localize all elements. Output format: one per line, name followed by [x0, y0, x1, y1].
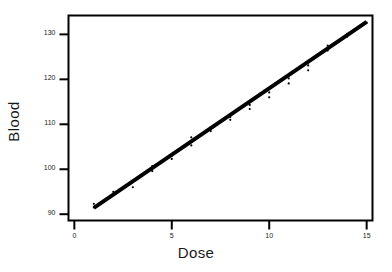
x-tick-label: 0 — [64, 232, 84, 239]
x-axis-ticks — [74, 221, 366, 230]
data-point — [229, 116, 231, 118]
data-point — [93, 203, 95, 205]
data-point — [210, 126, 212, 128]
y-axis-ticks — [60, 34, 69, 214]
data-point — [268, 91, 270, 93]
data-point — [190, 136, 192, 138]
data-point — [346, 33, 348, 35]
y-axis-title: Blood — [5, 72, 22, 172]
x-tick-label: 10 — [259, 232, 279, 239]
chart-container: 90100110120130 051015 Dose Blood — [0, 0, 392, 272]
data-point — [268, 96, 270, 98]
data-point — [132, 186, 134, 188]
y-tick-label: 110 — [30, 119, 56, 126]
data-point — [288, 82, 290, 84]
y-tick-label: 90 — [30, 209, 56, 216]
data-point — [151, 165, 153, 167]
data-point — [93, 206, 95, 208]
data-point — [171, 158, 173, 160]
data-point — [210, 130, 212, 132]
data-point — [366, 22, 368, 24]
data-point — [288, 77, 290, 79]
data-point — [346, 36, 348, 38]
y-tick-label: 100 — [30, 164, 56, 171]
data-point — [327, 45, 329, 47]
scatter-plot-canvas — [0, 0, 392, 272]
data-point — [229, 119, 231, 121]
data-point — [307, 69, 309, 71]
data-point — [249, 108, 251, 110]
data-point — [132, 180, 134, 182]
data-point — [327, 49, 329, 51]
data-point — [171, 155, 173, 157]
data-point — [151, 170, 153, 172]
x-tick-label: 5 — [162, 232, 182, 239]
data-point — [112, 191, 114, 193]
data-point — [190, 144, 192, 146]
y-tick-label: 130 — [30, 29, 56, 36]
data-point — [307, 64, 309, 66]
x-tick-label: 15 — [357, 232, 377, 239]
y-tick-label: 120 — [30, 74, 56, 81]
data-point — [249, 104, 251, 106]
x-axis-title: Dose — [0, 244, 392, 261]
